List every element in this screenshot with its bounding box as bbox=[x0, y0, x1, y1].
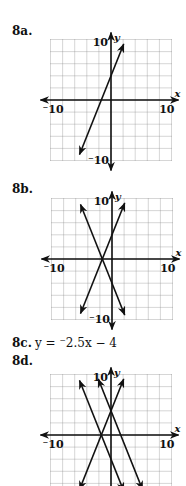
graph-8d: 10yx⁻1010⁻10 bbox=[0, 0, 186, 486]
y-max-label: 10 bbox=[93, 371, 109, 384]
y-axis-label: y bbox=[113, 367, 121, 378]
x-min-label: ⁻10 bbox=[43, 438, 64, 451]
x-axis-label: x bbox=[174, 423, 182, 434]
x-max-label: 10 bbox=[159, 438, 175, 451]
graphed-line-3 bbox=[98, 379, 142, 486]
